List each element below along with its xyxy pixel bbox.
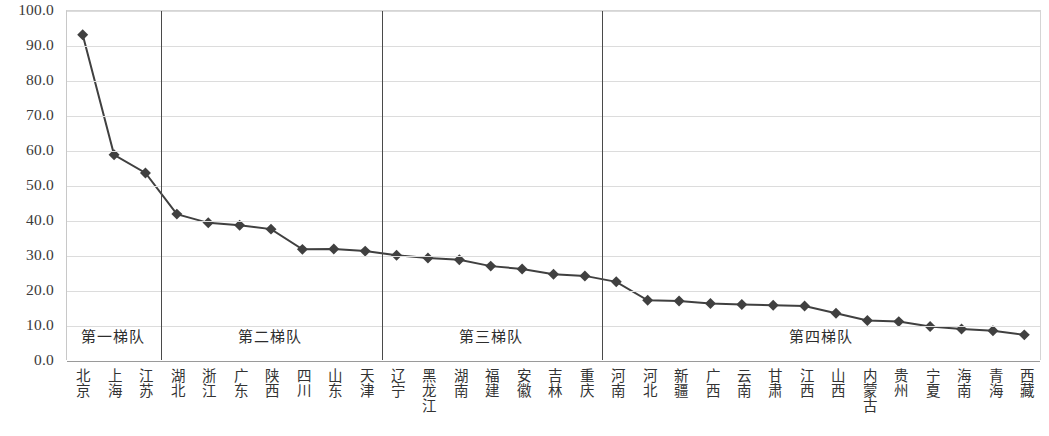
- y-axis-tick-label: 50.0: [26, 176, 54, 194]
- y-axis-tick-label: 100.0: [18, 1, 54, 19]
- x-axis-tick-label: 青海: [987, 368, 1002, 398]
- x-axis-tick-label: 上海: [106, 368, 121, 398]
- x-axis-tick-label: 西藏: [1018, 368, 1033, 398]
- data-point-marker: [548, 269, 559, 280]
- tier-divider-line: [602, 11, 603, 360]
- y-axis-tick-label: 30.0: [26, 246, 54, 264]
- x-axis-tick-label: 山东: [326, 368, 341, 398]
- line-chart: 100.090.080.070.060.050.040.030.020.010.…: [0, 0, 1049, 436]
- data-point-marker: [517, 263, 528, 274]
- plot-area: [66, 10, 1041, 360]
- data-point-marker: [328, 244, 339, 255]
- x-axis-tick-label: 四川: [295, 368, 310, 398]
- y-axis-tick-label: 0.0: [34, 351, 54, 369]
- x-axis-tick-label: 贵州: [892, 368, 907, 398]
- y-axis-tick-label: 10.0: [26, 316, 54, 334]
- data-point-marker: [768, 300, 779, 311]
- x-axis-tick-label: 新疆: [672, 368, 687, 398]
- x-axis-tick-label: 湖南: [452, 368, 467, 398]
- x-axis-tick-label: 浙江: [200, 368, 215, 398]
- x-axis-tick-label: 黑龙江: [420, 368, 435, 413]
- x-axis-tick-label: 广西: [704, 368, 719, 398]
- data-point-marker: [485, 261, 496, 272]
- gridline: [67, 361, 1040, 362]
- data-point-marker: [77, 29, 88, 40]
- data-point-marker: [611, 276, 622, 287]
- data-point-marker: [830, 308, 841, 319]
- gridline: [67, 116, 1040, 117]
- y-axis: 100.090.080.070.060.050.040.030.020.010.…: [0, 0, 62, 370]
- gridline: [67, 186, 1040, 187]
- data-point-marker: [422, 253, 433, 264]
- tier-group-label: 第三梯队: [459, 325, 523, 346]
- gridline: [67, 151, 1040, 152]
- x-axis-tick-label: 重庆: [578, 368, 593, 398]
- data-point-marker: [862, 315, 873, 326]
- y-axis-tick-label: 80.0: [26, 71, 54, 89]
- series-line: [83, 35, 1025, 335]
- gridline: [67, 291, 1040, 292]
- gridline: [67, 81, 1040, 82]
- x-axis-tick-label: 陕西: [263, 368, 278, 398]
- x-axis-tick-label: 河南: [609, 368, 624, 398]
- gridline: [67, 11, 1040, 12]
- y-axis-tick-label: 40.0: [26, 211, 54, 229]
- data-point-marker: [266, 224, 277, 235]
- x-axis-tick-label: 天津: [358, 368, 373, 398]
- data-point-marker: [736, 299, 747, 310]
- data-point-marker: [1019, 329, 1030, 340]
- x-axis-tick-label: 海南: [955, 368, 970, 398]
- gridline: [67, 326, 1040, 327]
- x-axis-tick-label: 甘肃: [766, 368, 781, 398]
- x-axis-tick-label: 安徽: [515, 368, 530, 398]
- data-point-marker: [203, 217, 214, 228]
- tier-group-label: 第二梯队: [238, 325, 302, 346]
- y-axis-tick-label: 20.0: [26, 281, 54, 299]
- tier-divider-line: [161, 11, 162, 360]
- data-point-marker: [642, 295, 653, 306]
- x-axis-tick-label: 云南: [735, 368, 750, 398]
- gridline: [67, 256, 1040, 257]
- x-axis-tick-label: 广东: [232, 368, 247, 398]
- x-axis: 北京上海江苏湖北浙江广东陕西四川山东天津辽宁黑龙江湖南福建安徽吉林重庆河南河北新…: [66, 366, 1041, 436]
- x-axis-tick-label: 山西: [829, 368, 844, 398]
- x-axis-tick-label: 北京: [74, 368, 89, 398]
- y-axis-tick-label: 90.0: [26, 36, 54, 54]
- y-axis-tick-label: 70.0: [26, 106, 54, 124]
- gridline: [67, 46, 1040, 47]
- y-axis-tick-label: 60.0: [26, 141, 54, 159]
- x-axis-tick-label: 江西: [798, 368, 813, 398]
- data-point-marker: [799, 300, 810, 311]
- tier-divider-line: [382, 11, 383, 360]
- gridline: [67, 221, 1040, 222]
- x-axis-tick-label: 福建: [483, 368, 498, 398]
- data-point-marker: [360, 246, 371, 257]
- data-point-marker: [705, 298, 716, 309]
- x-axis-tick-label: 内蒙古: [861, 368, 876, 413]
- x-axis-tick-label: 河北: [641, 368, 656, 398]
- data-point-marker: [297, 244, 308, 255]
- x-axis-tick-label: 江苏: [137, 368, 152, 398]
- x-axis-tick-label: 吉林: [546, 368, 561, 398]
- x-axis-tick-label: 湖北: [169, 368, 184, 398]
- tier-group-label: 第一梯队: [81, 325, 145, 346]
- x-axis-tick-label: 宁夏: [924, 368, 939, 398]
- tier-group-label: 第四梯队: [789, 325, 853, 346]
- data-point-marker: [674, 296, 685, 307]
- x-axis-tick-label: 辽宁: [389, 368, 404, 398]
- data-point-marker: [579, 270, 590, 281]
